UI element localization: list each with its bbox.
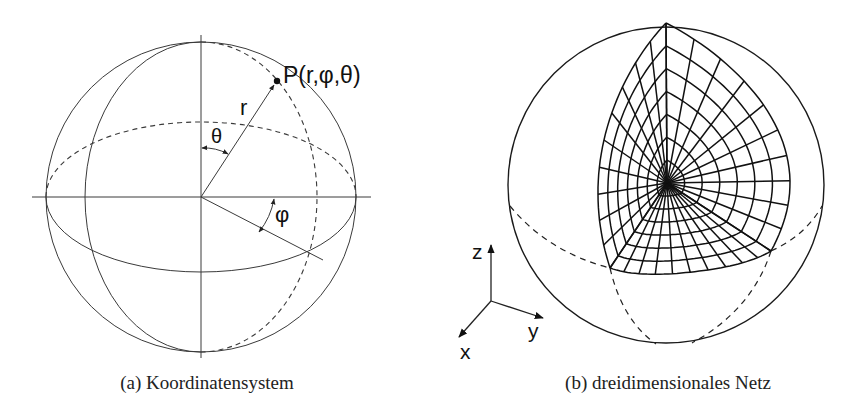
panel-b-3d-mesh: z y x (b) dreidimensionales Netz <box>459 23 824 394</box>
left-face-ring <box>598 23 666 268</box>
panel-a-coordinate-system: P(r,φ,θ) r θ φ (a) Koordinatensystem <box>32 35 371 394</box>
z-axis-label: z <box>472 240 483 263</box>
figure: P(r,φ,θ) r θ φ (a) Koordinatensystem z y… <box>0 0 852 418</box>
theta-label: θ <box>211 125 222 147</box>
theta-arc <box>202 148 228 154</box>
right-face-spoke <box>667 39 694 183</box>
radius-label: r <box>240 95 247 120</box>
right-face-ring <box>666 92 737 222</box>
axes-widget: z y x <box>459 240 543 363</box>
point-p-marker <box>274 78 280 84</box>
equator-left-dashed <box>510 206 610 268</box>
point-p-label: P(r,φ,θ) <box>283 62 361 88</box>
left-face-ring <box>628 92 667 232</box>
right-face-spoke <box>667 183 781 229</box>
x-axis-label: x <box>460 340 471 363</box>
caption-b: (b) dreidimensionales Netz <box>565 372 771 394</box>
phi-arc <box>259 199 274 232</box>
phi-label: φ <box>275 202 289 227</box>
bottom-face-spoke <box>624 183 667 272</box>
right-face-spoke <box>666 23 667 183</box>
left-face-spoke <box>650 41 667 183</box>
x-axis <box>459 301 491 337</box>
wedge-mesh <box>598 23 790 274</box>
right-face-ring <box>666 46 772 241</box>
y-axis-label: y <box>528 319 539 342</box>
right-face-spoke <box>667 59 721 183</box>
caption-a: (a) Koordinatensystem <box>120 372 294 394</box>
meridian-left-dashed <box>610 268 656 344</box>
y-axis <box>491 301 543 318</box>
right-face-spoke <box>667 181 790 183</box>
